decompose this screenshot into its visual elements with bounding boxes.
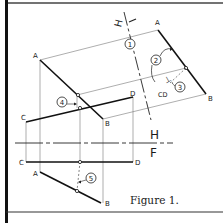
svg-text:5: 5: [89, 175, 93, 183]
fold-label-h: H: [150, 128, 159, 142]
callout-4: 4: [57, 97, 77, 107]
upper-point-intersect-1: [76, 93, 79, 96]
svg-text:1: 1: [128, 41, 132, 49]
fold-label-f: F: [150, 146, 157, 160]
perpendicular-mark: ⊥: [163, 74, 174, 85]
label-aux-b: B: [208, 95, 213, 103]
callout-1: 1: [125, 39, 135, 49]
label-aux-cd: CD: [158, 91, 168, 99]
upper-line-ab: [40, 60, 103, 119]
label-upper-c: C: [21, 114, 26, 122]
fold-line-h1: [124, 12, 151, 120]
lower-point-bottom: [75, 189, 78, 192]
figure-canvas: H H F A B C D A B CD ⊥ 1 2 3 4: [0, 0, 223, 223]
svg-text:3: 3: [178, 84, 182, 92]
fold-label-h1-tick: [129, 19, 136, 22]
callout-3: 3: [172, 82, 185, 92]
label-lower-d: D: [135, 159, 140, 167]
svg-text:4: 4: [60, 99, 65, 107]
svg-text:2: 2: [154, 57, 158, 65]
figure-caption: Figure 1.: [130, 194, 179, 206]
label-lower-c: C: [19, 159, 24, 167]
lower-point-top: [78, 160, 81, 163]
label-upper-b: B: [105, 120, 110, 128]
upper-point-intersect-2: [78, 106, 81, 109]
label-lower-a: A: [33, 170, 38, 178]
label-aux-a: A: [155, 19, 160, 27]
lower-dashed-drop: [77, 162, 80, 191]
label-upper-a: A: [33, 52, 38, 60]
fold-label-h1-top: H: [112, 18, 124, 28]
fold-label-h1: H: [112, 18, 124, 28]
callout-5: 5: [78, 173, 96, 184]
label-upper-d: D: [130, 90, 135, 98]
label-lower-b: B: [105, 200, 110, 208]
